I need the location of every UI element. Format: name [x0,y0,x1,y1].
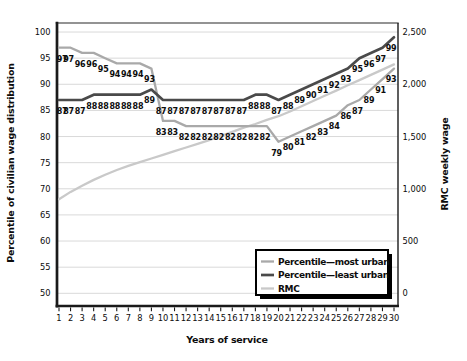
point-label-percentile-least-urban: 87 [167,107,178,116]
point-label-percentile-least-urban: 87 [213,107,224,116]
point-label-percentile-most-urban: 89 [364,96,375,105]
x-tick-label: 7 [126,313,131,323]
x-tick-label: 1 [56,313,61,323]
y-left-tick-label: 85 [40,105,51,115]
point-label-percentile-most-urban: 97 [63,55,74,64]
point-label-percentile-most-urban: 86 [340,112,351,121]
x-tick-label: 17 [239,313,250,323]
point-label-percentile-most-urban: 83 [156,128,167,137]
x-tick-label: 12 [181,313,192,323]
point-label-percentile-least-urban: 92 [329,81,340,90]
y-left-tick-label: 75 [40,158,51,168]
point-label-percentile-least-urban: 88 [133,102,144,111]
point-label-percentile-least-urban: 87 [236,107,247,116]
x-tick-label: 13 [192,313,203,323]
point-label-percentile-most-urban: 94 [121,70,132,79]
point-label-percentile-most-urban: 96 [86,60,97,69]
x-axis-title: Years of service [185,334,268,345]
x-tick-label: 15 [215,313,226,323]
point-label-percentile-most-urban: 82 [306,133,317,142]
point-label-percentile-most-urban: 93 [386,75,397,84]
legend-label-percentile-most-urban: Percentile—most urban [278,257,389,267]
legend-label-rmc: RMC [278,284,300,294]
point-label-percentile-least-urban: 88 [248,102,259,111]
point-label-percentile-most-urban: 83 [317,128,328,137]
y-left-tick-label: 95 [40,53,51,63]
x-tick-label: 8 [137,313,142,323]
left-axis-title: Percentile of civilian wage distribution [5,63,16,263]
point-label-percentile-least-urban: 88 [86,102,97,111]
point-label-percentile-most-urban: 83 [167,128,178,137]
x-tick-label: 4 [91,313,96,323]
point-label-percentile-most-urban: 82 [213,133,224,142]
point-label-percentile-most-urban: 79 [271,149,282,158]
x-tick-label: 19 [262,313,273,323]
x-tick-label: 23 [308,313,319,323]
y-left-tick-label: 100 [35,27,51,37]
x-tick-label: 20 [273,313,284,323]
point-label-percentile-least-urban: 90 [306,91,317,100]
point-label-percentile-least-urban: 88 [109,102,120,111]
point-label-percentile-least-urban: 87 [156,107,167,116]
point-label-percentile-most-urban: 82 [248,133,259,142]
point-label-percentile-most-urban: 96 [75,60,86,69]
right-axis-title: RMC weekly wage [439,117,450,210]
legend: Percentile—most urbanPercentile—least ur… [256,250,392,299]
point-label-percentile-least-urban: 91 [317,86,328,95]
y-left-tick-label: 60 [40,236,51,246]
x-tick-label: 26 [343,313,354,323]
series-line-percentile-least-urban [59,37,394,100]
point-label-percentile-most-urban: 84 [329,122,340,131]
x-tick-label: 28 [366,313,377,323]
y-right-tick-label: 500 [403,236,419,246]
point-label-percentile-least-urban: 87 [179,107,190,116]
point-label-percentile-least-urban: 95 [352,65,363,74]
point-label-percentile-least-urban: 97 [375,55,386,64]
point-label-percentile-most-urban: 80 [283,143,294,152]
y-left-tick-label: 55 [40,262,51,272]
point-label-percentile-least-urban: 87 [271,107,282,116]
x-tick-label: 9 [149,313,154,323]
y-right-tick-label: 2,500 [403,27,427,37]
x-tick-label: 22 [296,313,307,323]
point-label-percentile-least-urban: 89 [144,96,155,105]
x-tick-label: 5 [103,313,108,323]
point-label-percentile-most-urban: 95 [98,65,109,74]
legend-label-percentile-least-urban: Percentile—least urban [278,270,389,280]
y-right-tick-label: 1,000 [403,184,427,194]
point-label-percentile-most-urban: 93 [144,75,155,84]
x-tick-label: 25 [331,313,342,323]
y-left-tick-label: 65 [40,210,51,220]
point-label-percentile-least-urban: 87 [63,107,74,116]
point-label-percentile-most-urban: 82 [236,133,247,142]
point-label-percentile-most-urban: 82 [190,133,201,142]
y-right-tick-label: 2,000 [403,79,427,89]
point-label-percentile-least-urban: 88 [283,102,294,111]
point-label-percentile-least-urban: 88 [98,102,109,111]
y-left-tick-label: 50 [40,288,51,298]
y-left-tick-label: 80 [40,132,51,142]
point-label-percentile-least-urban: 88 [121,102,132,111]
chart-figure: 1234567891011121314151617181920212223242… [0,0,467,361]
x-tick-label: 6 [114,313,119,323]
y-right-tick-label: 1,500 [403,132,427,142]
x-tick-label: 2 [68,313,73,323]
point-label-percentile-least-urban: 87 [190,107,201,116]
x-tick-label: 14 [204,313,215,323]
point-label-percentile-least-urban: 99 [386,44,397,53]
point-label-percentile-most-urban: 94 [109,70,120,79]
x-tick-label: 21 [285,313,296,323]
point-label-percentile-least-urban: 96 [364,60,375,69]
y-left-tick-label: 70 [40,184,51,194]
x-tick-label: 16 [227,313,238,323]
point-label-percentile-most-urban: 87 [352,107,363,116]
x-tick-label: 18 [250,313,261,323]
x-tick-label: 30 [389,313,400,323]
y-left-tick-label: 90 [40,79,51,89]
point-label-percentile-least-urban: 89 [294,96,305,105]
point-label-percentile-most-urban: 94 [133,70,144,79]
point-label-percentile-least-urban: 87 [225,107,236,116]
x-tick-label: 11 [169,313,180,323]
point-label-percentile-least-urban: 87 [202,107,213,116]
point-label-percentile-most-urban: 82 [179,133,190,142]
